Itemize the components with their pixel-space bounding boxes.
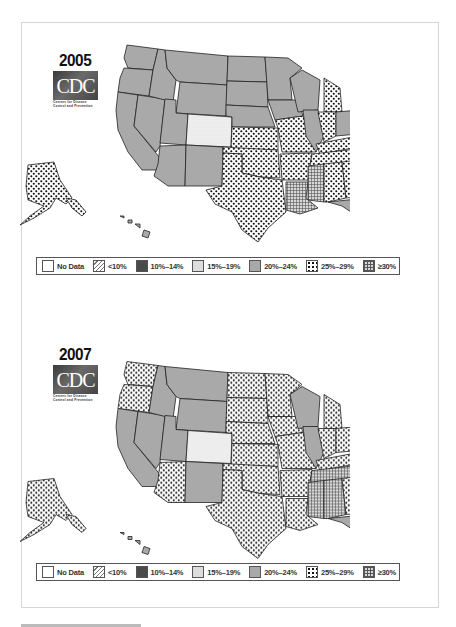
swatch-no-data (42, 260, 54, 272)
legend-item-20-24: 20%–24% (249, 260, 297, 272)
swatch-lt10 (93, 260, 105, 272)
state-ak (20, 479, 72, 542)
swatch-25-29 (306, 566, 318, 578)
legend-item-10-14: 10%–14% (136, 260, 184, 272)
state-hi (120, 533, 150, 555)
state-az (154, 462, 186, 503)
state-ms (308, 164, 324, 202)
state-sd (226, 398, 268, 424)
state-ak-panhandle (66, 515, 86, 533)
state-nm (185, 145, 223, 186)
state-wy (176, 399, 227, 433)
state-ar (280, 470, 312, 497)
swatch-no-data (42, 566, 54, 578)
state-ak-panhandle (66, 198, 86, 216)
state-nd (227, 56, 267, 82)
state-wa (124, 362, 158, 387)
state-ne (226, 105, 275, 127)
swatch-15-19 (192, 566, 204, 578)
legend-item-15-19: 15%–19% (192, 260, 240, 272)
legend-item-15-19: 15%–19% (192, 566, 240, 578)
swatch-10-14 (136, 566, 148, 578)
legend-item-lt10: <10% (93, 566, 127, 578)
swatch-25-29 (306, 260, 318, 272)
legend-item-gte30: ≥30% (363, 566, 396, 578)
us-map-2007 (20, 354, 350, 569)
state-oh (336, 110, 350, 136)
state-co (186, 431, 232, 464)
state-co (186, 114, 232, 147)
state-sd (226, 81, 268, 107)
legend-item-20-24: 20%–24% (249, 566, 297, 578)
state-ks (231, 127, 278, 150)
state-or (118, 68, 153, 96)
state-ak (20, 162, 72, 225)
state-ar (280, 153, 312, 180)
state-nd (227, 373, 267, 399)
state-az (154, 145, 186, 186)
swatch-lt10 (93, 566, 105, 578)
state-oh (336, 427, 350, 453)
legend-item-25-29: 25%–29% (306, 260, 354, 272)
swatch-20-24 (249, 260, 261, 272)
state-mi (324, 395, 342, 429)
legend-item-no-data: No Data (42, 260, 84, 272)
swatch-10-14 (136, 260, 148, 272)
legend-item-25-29: 25%–29% (306, 566, 354, 578)
state-or (118, 385, 153, 413)
us-map-2005 (20, 40, 350, 250)
state-wa (124, 45, 158, 70)
state-wy (176, 82, 227, 116)
legend-item-10-14: 10%–14% (136, 566, 184, 578)
swatch-gte30 (363, 566, 375, 578)
figure-caption-clipped (21, 621, 141, 627)
state-fl (328, 198, 350, 240)
swatch-gte30 (363, 260, 375, 272)
legend-item-gte30: ≥30% (363, 260, 396, 272)
state-ne (226, 422, 275, 444)
state-mi (324, 78, 342, 112)
legend-2007: No Data <10% 10%–14% 15%–19% 20%–24% 25%… (36, 563, 400, 581)
swatch-20-24 (249, 566, 261, 578)
state-ks (231, 444, 278, 467)
legend-item-lt10: <10% (93, 260, 127, 272)
state-fl (328, 515, 350, 557)
legend-2005: No Data <10% 10%–14% 15%–19% 20%–24% 25%… (36, 257, 400, 275)
legend-item-no-data: No Data (42, 566, 84, 578)
state-ms (308, 481, 324, 519)
state-nm (185, 462, 223, 503)
state-hi (120, 216, 150, 238)
swatch-15-19 (192, 260, 204, 272)
